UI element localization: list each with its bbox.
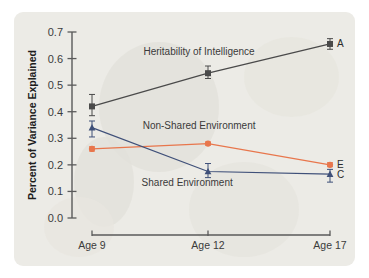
y-axis-tick-label: 0.6 (48, 53, 63, 65)
annotation-label: Non-Shared Environment (143, 120, 256, 131)
y-axis-tick-label: 0.1 (48, 185, 63, 197)
annotation-label: Shared Environment (142, 177, 233, 188)
line-chart: Percent of Variance Explained 0.00.10.20… (0, 0, 369, 278)
data-point-triangle (89, 124, 96, 130)
annotation-layer: Heritability of IntelligenceNon-Shared E… (142, 46, 256, 189)
y-axis-tick-label: 0.5 (48, 79, 63, 91)
data-point-circle (205, 141, 211, 147)
x-axis-tick-label: Age 9 (78, 239, 106, 251)
y-axis-tick-label: 0.7 (48, 26, 63, 38)
annotation-label: Heritability of Intelligence (144, 46, 256, 57)
data-point-square (205, 70, 211, 76)
y-axis-tick-label: 0.2 (48, 159, 63, 171)
chart-figure: Percent of Variance Explained 0.00.10.20… (0, 0, 369, 278)
series-layer: AEC (89, 38, 345, 182)
series-endpoint-label-a: A (337, 38, 344, 49)
x-axis: Age 9Age 12Age 17 (78, 231, 347, 252)
series-line (92, 128, 330, 175)
y-axis-tick-label: 0.0 (48, 212, 63, 224)
y-axis-tick-label: 0.4 (48, 106, 63, 118)
y-axis-title: Percent of Variance Explained (26, 50, 38, 200)
data-point-circle (89, 146, 95, 152)
y-axis: 0.00.10.20.30.40.50.60.7 (48, 26, 77, 224)
x-axis-tick-label: Age 17 (313, 239, 346, 251)
series-line (92, 144, 330, 165)
x-axis-tick-label: Age 12 (191, 239, 224, 251)
data-point-square (89, 103, 95, 109)
y-axis-tick-label: 0.3 (48, 132, 63, 144)
data-point-circle (327, 162, 333, 168)
series-endpoint-label-c: C (337, 169, 344, 180)
data-point-square (327, 41, 333, 47)
series-e: E (89, 141, 344, 171)
